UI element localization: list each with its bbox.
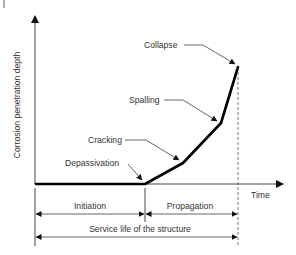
propagation-label: Propagation (167, 201, 214, 211)
service-life-label: Service life of the structure (89, 224, 191, 234)
depassivation-leader (128, 164, 142, 180)
spalling-label: Spalling (129, 95, 160, 105)
x-axis-label: Time (251, 190, 270, 200)
spalling-leader (164, 100, 217, 121)
collapse-leader (184, 45, 235, 64)
cracking-leader (125, 140, 179, 160)
initiation-label: Initiation (74, 201, 106, 211)
collapse-label: Collapse (144, 40, 178, 50)
cracking-label: Cracking (88, 135, 122, 145)
y-axis-label: Corrosion penetration depth (12, 52, 22, 159)
depassivation-label: Depassivation (65, 158, 119, 168)
corrosion-service-life-diagram: Corrosion penetration depth Time Collaps… (0, 0, 296, 255)
